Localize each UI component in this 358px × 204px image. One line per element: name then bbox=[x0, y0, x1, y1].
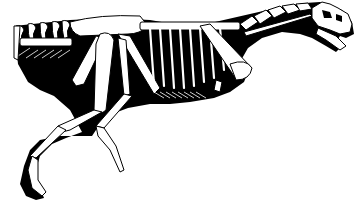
metatarsals bbox=[30, 126, 66, 158]
pelvis bbox=[70, 16, 148, 36]
skull bbox=[312, 2, 352, 50]
skeletal-diagram bbox=[0, 0, 358, 204]
forelimb bbox=[214, 80, 222, 92]
right-foot bbox=[96, 126, 124, 172]
